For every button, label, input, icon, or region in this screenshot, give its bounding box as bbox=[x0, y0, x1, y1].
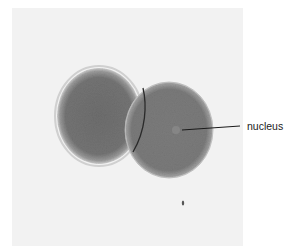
micrograph-figure: nucleus bbox=[0, 0, 304, 251]
nucleus bbox=[172, 126, 180, 134]
debris-speck bbox=[182, 200, 184, 205]
right-cell bbox=[125, 82, 213, 178]
nucleus-label: nucleus bbox=[247, 120, 283, 132]
